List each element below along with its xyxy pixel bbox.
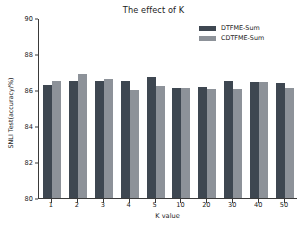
bar-group	[39, 19, 65, 198]
bars-layer	[39, 19, 297, 198]
bar-group	[91, 19, 117, 198]
bar	[52, 81, 61, 198]
y-tick-label: 90	[0, 15, 38, 23]
bar	[156, 86, 165, 198]
bar	[104, 79, 113, 198]
bar-group	[246, 19, 272, 198]
legend-swatch-icon	[199, 26, 216, 31]
x-tick-mark	[180, 199, 181, 203]
bar-group	[65, 19, 91, 198]
x-axis-label: K value	[38, 212, 297, 220]
chart-figure: The effect of K SNLI Test(accuracy/%) K …	[0, 0, 307, 230]
bar	[121, 81, 130, 198]
x-tick-mark	[103, 199, 104, 203]
bar	[95, 81, 104, 198]
bar	[69, 81, 78, 198]
legend-item[interactable]: DTFME-Sum	[199, 24, 264, 33]
chart-title: The effect of K	[0, 5, 307, 15]
y-tick-mark	[35, 19, 39, 20]
y-tick-label: 84	[0, 123, 38, 131]
legend-item-label: DTFME-Sum	[221, 24, 260, 32]
x-tick-mark	[284, 199, 285, 203]
y-tick-mark	[35, 163, 39, 164]
x-tick-mark	[77, 199, 78, 203]
y-tick-mark	[35, 55, 39, 56]
chart-legend: DTFME-SumCDTFME-Sum	[196, 22, 268, 46]
x-tick-mark	[129, 199, 130, 203]
x-tick-mark	[206, 199, 207, 203]
y-tick-mark	[35, 199, 39, 200]
y-tick-mark	[35, 91, 39, 92]
y-tick-label: 80	[0, 195, 38, 203]
bar	[172, 88, 181, 198]
bar	[224, 81, 233, 198]
bar	[147, 77, 156, 198]
bar	[233, 89, 242, 198]
bar	[285, 88, 294, 198]
bar	[198, 87, 207, 198]
legend-item[interactable]: CDTFME-Sum	[199, 34, 264, 43]
bar	[130, 90, 139, 198]
bar	[276, 83, 285, 198]
bar-group	[220, 19, 246, 198]
plot-area	[38, 19, 297, 199]
legend-item-label: CDTFME-Sum	[221, 34, 264, 42]
x-tick-mark	[258, 199, 259, 203]
bar	[259, 82, 268, 198]
y-tick-label: 88	[0, 51, 38, 59]
x-tick-mark	[155, 199, 156, 203]
bar	[43, 85, 52, 198]
bar	[207, 89, 216, 198]
x-tick-mark	[51, 199, 52, 203]
y-tick-label: 86	[0, 87, 38, 95]
bar	[250, 82, 259, 198]
y-tick-label: 82	[0, 159, 38, 167]
bar-group	[169, 19, 195, 198]
bar-group	[143, 19, 169, 198]
bar-group	[194, 19, 220, 198]
y-tick-mark	[35, 127, 39, 128]
bar-group	[117, 19, 143, 198]
bar	[78, 74, 87, 198]
legend-swatch-icon	[199, 36, 216, 41]
bar-group	[272, 19, 298, 198]
bar	[181, 88, 190, 198]
x-tick-mark	[232, 199, 233, 203]
